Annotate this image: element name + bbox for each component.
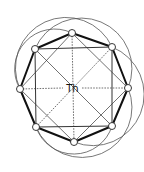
node-right	[125, 85, 132, 92]
node-lower-right	[109, 123, 116, 130]
node-left	[17, 86, 24, 93]
center-atom-label: Th	[65, 83, 78, 94]
node-top	[69, 30, 76, 37]
node-upper-right	[109, 44, 116, 51]
node-bottom	[71, 139, 78, 146]
arc-right-bottom	[74, 47, 144, 146]
node-lower-left	[33, 124, 40, 131]
coordination-diagram: Th	[0, 0, 144, 172]
node-upper-left	[32, 46, 39, 53]
